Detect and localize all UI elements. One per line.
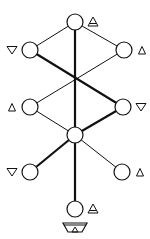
edges xyxy=(30,22,124,209)
node-n2 xyxy=(22,42,38,58)
triangle-down-icon xyxy=(136,104,146,112)
triangle-up-icon xyxy=(9,104,16,112)
triangle-up-icon xyxy=(137,169,144,177)
edge-n6-n8 xyxy=(75,135,122,172)
triangle-up-icon xyxy=(72,227,78,232)
node-n5 xyxy=(115,99,131,115)
triangle-up-icon xyxy=(88,17,98,26)
edge-n6-n7 xyxy=(30,135,75,172)
triangle-down-icon xyxy=(7,47,17,55)
triangle-down-icon xyxy=(7,169,17,177)
node-diagram xyxy=(0,0,150,239)
node-n8 xyxy=(114,164,130,180)
node-n7 xyxy=(22,164,38,180)
base-symbol-icon xyxy=(63,223,87,232)
node-n1 xyxy=(67,14,83,30)
triangle-up-icon xyxy=(88,204,98,213)
node-n6 xyxy=(67,127,83,143)
node-n4 xyxy=(22,99,38,115)
node-n3 xyxy=(116,42,132,58)
triangle-up-icon xyxy=(139,47,146,55)
node-n9 xyxy=(67,201,83,217)
